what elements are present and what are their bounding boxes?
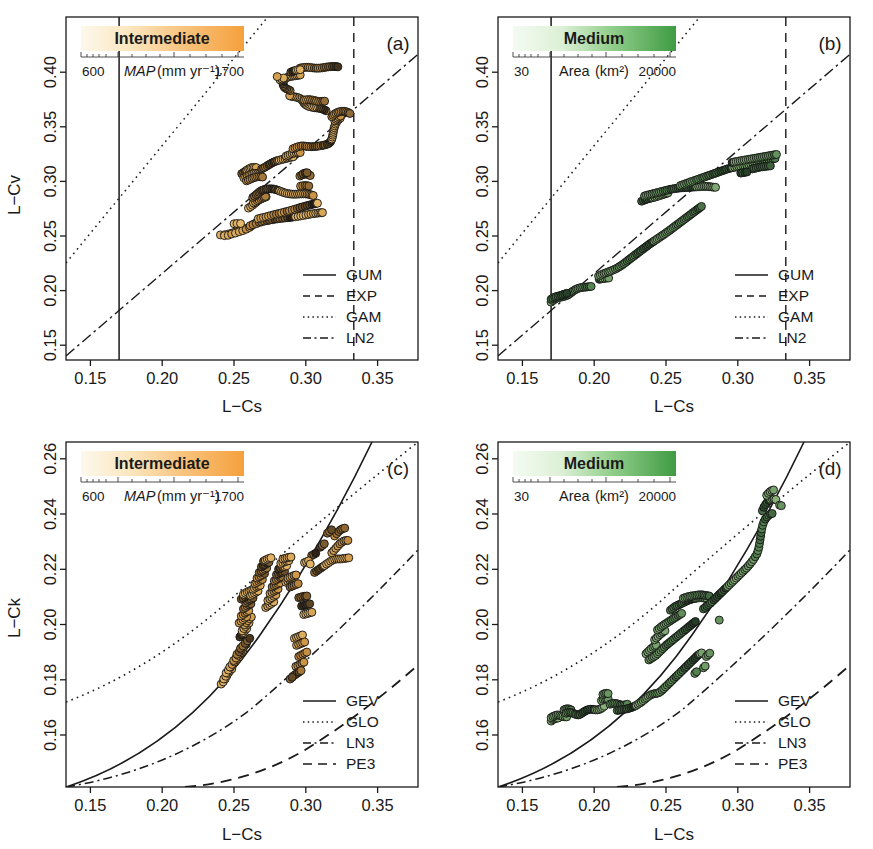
- y-axis-labels-d: 0.16 0.18 0.20 0.22 0.24 0.26: [473, 443, 491, 751]
- data-point: [312, 549, 320, 557]
- data-point: [287, 553, 295, 561]
- svg-text:0.20: 0.20: [41, 608, 59, 640]
- svg-text:0.30: 0.30: [290, 796, 322, 814]
- colorbar-units-b: (km²): [595, 63, 629, 79]
- colorbar-title-c: Intermediate: [114, 455, 209, 472]
- data-point: [320, 540, 328, 548]
- legend-label-gam-b: GAM: [778, 308, 813, 325]
- data-point: [328, 526, 336, 534]
- legend-label-pe3-c: PE3: [346, 755, 375, 772]
- data-point: [712, 183, 720, 191]
- svg-text:0.24: 0.24: [41, 498, 59, 530]
- colorbar-variable-a: MAP: [124, 63, 156, 79]
- svg-text:0.35: 0.35: [794, 796, 826, 814]
- colorbar-units-d: (km²): [595, 488, 629, 504]
- svg-text:0.30: 0.30: [722, 369, 754, 387]
- svg-text:0.22: 0.22: [41, 553, 59, 585]
- svg-text:0.16: 0.16: [41, 719, 59, 751]
- panel-b-svg: 0.15 0.20 0.25 0.30 0.35 0.40 0.15 0.20 …: [437, 0, 873, 420]
- x-axis-title-a: L−Cs: [222, 397, 262, 416]
- x-axis-labels-d: 0.15 0.20 0.25 0.30 0.35: [506, 796, 825, 814]
- data-point: [777, 502, 785, 510]
- svg-text:0.35: 0.35: [362, 369, 394, 387]
- data-point: [693, 668, 701, 676]
- data-point: [604, 690, 612, 698]
- colorbar-title-a: Intermediate: [114, 30, 209, 47]
- legend-label-ln3-d: LN3: [778, 734, 806, 751]
- colorbar-units-a: (mm yr⁻¹): [157, 63, 220, 79]
- x-axis-ticks-b: [522, 360, 809, 366]
- legend-label-gum-b: GUM: [778, 266, 814, 283]
- legend-label-pe3-d: PE3: [778, 755, 807, 772]
- svg-text:0.22: 0.22: [473, 553, 491, 585]
- x-axis-title-c: L−Cs: [222, 825, 262, 844]
- data-point: [292, 571, 300, 579]
- legend-label-gev-c: GEV: [346, 692, 379, 709]
- glo-curve-c: [66, 442, 418, 702]
- svg-text:0.20: 0.20: [578, 796, 610, 814]
- legend-label-glo-c: GLO: [346, 713, 379, 730]
- colorbar-variable-b: Area: [559, 63, 591, 79]
- data-point: [321, 97, 329, 105]
- scatter-points-a: [216, 62, 353, 239]
- svg-text:0.15: 0.15: [74, 369, 106, 387]
- data-point: [691, 618, 699, 626]
- svg-text:0.20: 0.20: [41, 275, 59, 307]
- svg-text:0.30: 0.30: [722, 796, 754, 814]
- scatter-points-b: [547, 150, 780, 306]
- svg-text:0.15: 0.15: [506, 369, 538, 387]
- data-point: [259, 173, 267, 181]
- svg-text:0.40: 0.40: [473, 56, 491, 88]
- data-point: [237, 220, 245, 228]
- legend-d: GEV GLO LN3 PE3: [735, 692, 811, 772]
- svg-text:0.20: 0.20: [146, 796, 178, 814]
- data-point: [288, 673, 296, 681]
- y-axis-ticks-c: [60, 459, 66, 735]
- data-point: [772, 150, 780, 158]
- data-point: [768, 510, 776, 518]
- data-point: [303, 648, 311, 656]
- svg-text:0.20: 0.20: [473, 608, 491, 640]
- svg-text:0.26: 0.26: [473, 443, 491, 475]
- data-point: [743, 168, 751, 176]
- data-point: [563, 289, 571, 297]
- legend-label-glo-d: GLO: [778, 713, 811, 730]
- legend-label-gev-d: GEV: [778, 692, 811, 709]
- svg-text:0.16: 0.16: [473, 719, 491, 751]
- svg-text:0.25: 0.25: [650, 369, 682, 387]
- svg-text:0.24: 0.24: [473, 498, 491, 530]
- data-point: [770, 486, 778, 494]
- colorbar-title-b: Medium: [564, 30, 624, 47]
- ln3-curve-d: [498, 550, 850, 787]
- data-point: [294, 580, 302, 588]
- colorbar-variable-c: MAP: [124, 488, 156, 504]
- data-point: [313, 199, 321, 207]
- y-axis-ticks-d: [492, 459, 498, 735]
- colorbar-min-c: 600: [82, 489, 105, 504]
- y-axis-ticks-b: [492, 72, 498, 345]
- y-axis-title-c: L−Ck: [5, 597, 24, 638]
- colorbar-d: Medium 30 20000 Area (km²): [513, 451, 676, 504]
- svg-text:0.35: 0.35: [41, 111, 59, 143]
- y-axis-labels-a: 0.15 0.20 0.25 0.30 0.35 0.40: [41, 56, 59, 361]
- colorbar-scale-ticks-c: [81, 477, 244, 482]
- y-axis-labels-c: 0.16 0.18 0.20 0.22 0.24 0.26: [41, 443, 59, 751]
- colorbar-scale-ticks-b: [513, 52, 676, 57]
- x-axis-title-d: L−Cs: [654, 825, 694, 844]
- svg-text:0.30: 0.30: [290, 369, 322, 387]
- x-axis-labels-c: 0.15 0.20 0.25 0.30 0.35: [74, 796, 393, 814]
- colorbar-min-b: 30: [514, 64, 529, 79]
- data-point: [766, 162, 774, 170]
- data-point: [678, 609, 686, 617]
- data-point: [701, 662, 709, 670]
- colorbar-a: Intermediate 600 1700 MAP (mm yr⁻¹): [81, 26, 244, 79]
- legend-label-ln3-c: LN3: [346, 734, 374, 751]
- data-point: [308, 608, 316, 616]
- data-point: [303, 169, 311, 177]
- scatter-points-d: [547, 486, 785, 725]
- svg-text:0.20: 0.20: [473, 275, 491, 307]
- svg-text:0.18: 0.18: [41, 664, 59, 696]
- x-axis-labels-a: 0.15 0.20 0.25 0.30 0.35: [74, 369, 393, 387]
- legend-label-ln2-a: LN2: [346, 329, 374, 346]
- legend-label-ln2-b: LN2: [778, 329, 806, 346]
